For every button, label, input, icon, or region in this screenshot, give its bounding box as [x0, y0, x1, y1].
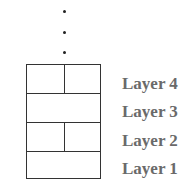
layer-3-block	[27, 94, 100, 123]
ellipsis-dot	[63, 31, 66, 34]
layer-1-block	[27, 152, 100, 179]
layer-4-divider	[64, 65, 65, 94]
layer-2-divider	[64, 123, 65, 152]
layer-stack	[26, 64, 101, 179]
layer-4-label: Layer 4	[122, 75, 178, 92]
ellipsis-dot	[63, 51, 66, 54]
layer-2-block	[27, 123, 100, 152]
layer-4-block	[27, 65, 100, 94]
layer-2-label: Layer 2	[122, 132, 178, 149]
layer-1-label: Layer 1	[122, 160, 178, 177]
layer-3-label: Layer 3	[122, 103, 178, 120]
ellipsis-dot	[63, 10, 66, 13]
